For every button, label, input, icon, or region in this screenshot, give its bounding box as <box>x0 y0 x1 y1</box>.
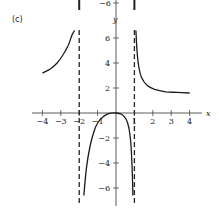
axes <box>32 0 202 206</box>
y-tick-label: 2 <box>105 84 110 93</box>
x-axis-label: x <box>206 109 211 118</box>
top-fragment-label: −6 <box>99 0 111 8</box>
vertical-asymptotes <box>79 0 134 206</box>
ticks: −4−3−2−11234642−2−4−6 <box>37 3 193 193</box>
x-tick-label: −3 <box>55 117 67 126</box>
x-tick-label: −4 <box>37 117 49 126</box>
x-tick-label: 4 <box>187 117 192 126</box>
y-tick-label: −4 <box>98 159 110 168</box>
y-tick-label: −6 <box>98 184 110 193</box>
x-tick-label: 2 <box>150 117 155 126</box>
y-axis-label: y <box>112 15 118 24</box>
x-tick-label: 3 <box>169 117 174 126</box>
y-tick-label: 4 <box>105 59 110 68</box>
y-tick-label: −2 <box>98 134 110 143</box>
y-tick-label: 6 <box>105 34 110 43</box>
curve-right-branch <box>136 31 190 94</box>
curve-left-branch <box>42 31 74 74</box>
function-plot: −4−3−2−11234642−2−4−6 x y −6 <box>0 0 219 214</box>
